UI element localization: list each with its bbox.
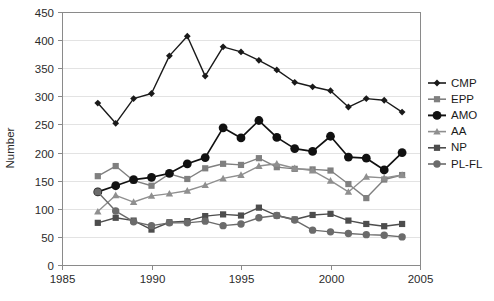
marker-amo-1991 — [165, 169, 174, 178]
y-tick-label-200: 200 — [35, 148, 54, 160]
marker-np-1996 — [256, 205, 262, 211]
marker-pl-fl-1987 — [94, 188, 101, 195]
marker-amo-1992 — [183, 159, 192, 168]
y-tick-label-350: 350 — [35, 63, 54, 75]
marker-amo-1997 — [272, 133, 281, 142]
marker-amo-2004 — [398, 148, 407, 157]
legend-label-np: NP — [451, 141, 467, 153]
marker-epp-1987 — [95, 173, 101, 179]
marker-amo-1996 — [255, 116, 264, 125]
marker-pl-fl-1996 — [255, 214, 262, 221]
marker-amo-2001 — [344, 153, 353, 162]
x-tick-label-2000: 2000 — [319, 273, 345, 285]
marker-np-2002 — [363, 221, 369, 227]
marker-pl-fl-2004 — [398, 233, 405, 240]
marker-epp-1992 — [184, 176, 190, 182]
y-tick-label-100: 100 — [35, 204, 54, 216]
y-tick-label-0: 0 — [48, 260, 54, 272]
marker-epp-1993 — [202, 165, 208, 171]
y-tick-label-250: 250 — [35, 119, 54, 131]
y-axis-title: Number — [4, 127, 16, 168]
marker-epp-2002 — [363, 195, 369, 201]
marker-amo-2000 — [326, 132, 335, 141]
marker-pl-fl-1998 — [291, 216, 298, 223]
y-tick-label-400: 400 — [35, 35, 54, 47]
x-tick-label-1990: 1990 — [140, 273, 166, 285]
marker-pl-fl-1994 — [219, 222, 226, 229]
marker-amo-1993 — [201, 153, 210, 162]
legend-label-pl-fl: PL-FL — [451, 158, 483, 170]
x-tick-label-2005: 2005 — [408, 273, 434, 285]
marker-epp-1994 — [220, 161, 226, 167]
marker-pl-fl-2001 — [345, 230, 352, 237]
x-tick-label-1985: 1985 — [50, 273, 76, 285]
y-tick-label-150: 150 — [35, 176, 54, 188]
marker-np-1999 — [310, 212, 316, 218]
marker-np-1995 — [238, 212, 244, 218]
marker-amo-1990 — [147, 173, 156, 182]
marker-epp-2000 — [327, 167, 333, 173]
marker-pl-fl-1992 — [184, 219, 191, 226]
marker-np-1994 — [220, 211, 226, 217]
marker-np-2003 — [381, 223, 387, 229]
line-chart: 050100150200250300350400450 198519901995… — [0, 0, 494, 301]
marker-pl-fl-2002 — [363, 231, 370, 238]
y-tick-label-450: 450 — [35, 7, 54, 19]
legend-label-cmp: CMP — [451, 77, 477, 89]
marker-pl-fl-1995 — [237, 220, 244, 227]
marker-amo-2002 — [362, 154, 371, 163]
marker-epp-1995 — [238, 162, 244, 168]
legend-marker-amo — [433, 111, 442, 120]
marker-amo-1994 — [219, 123, 228, 132]
marker-np-2001 — [345, 217, 351, 223]
marker-np-2000 — [327, 211, 333, 217]
marker-pl-fl-1989 — [130, 218, 137, 225]
marker-amo-1988 — [111, 181, 120, 190]
marker-amo-1998 — [290, 144, 299, 153]
legend-label-epp: EPP — [451, 93, 474, 105]
y-tick-label-300: 300 — [35, 91, 54, 103]
marker-pl-fl-1991 — [166, 219, 173, 226]
legend-label-amo: AMO — [451, 109, 477, 121]
marker-epp-2001 — [345, 181, 351, 187]
marker-amo-1999 — [308, 147, 317, 156]
marker-np-1987 — [95, 220, 101, 226]
marker-pl-fl-1990 — [148, 222, 155, 229]
marker-pl-fl-1997 — [273, 212, 280, 219]
marker-epp-1990 — [148, 183, 154, 189]
chart-canvas: 050100150200250300350400450 198519901995… — [0, 0, 494, 301]
legend-label-aa: AA — [451, 125, 467, 137]
marker-pl-fl-2000 — [327, 228, 334, 235]
marker-pl-fl-2003 — [381, 232, 388, 239]
marker-amo-2003 — [380, 166, 389, 175]
marker-epp-1996 — [256, 155, 262, 161]
y-tick-label-50: 50 — [41, 232, 54, 244]
marker-pl-fl-1999 — [309, 226, 316, 233]
marker-epp-1988 — [113, 163, 119, 169]
marker-amo-1989 — [129, 175, 138, 184]
marker-np-2004 — [399, 221, 405, 227]
marker-np-1988 — [113, 215, 119, 221]
marker-pl-fl-1988 — [112, 207, 119, 214]
marker-amo-1995 — [237, 134, 246, 143]
legend-marker-np — [434, 145, 440, 151]
legend-marker-epp — [434, 96, 440, 102]
legend-marker-pl-fl — [433, 160, 440, 167]
marker-pl-fl-1993 — [202, 217, 209, 224]
x-tick-label-1995: 1995 — [229, 273, 255, 285]
